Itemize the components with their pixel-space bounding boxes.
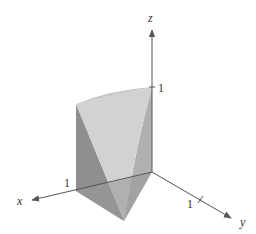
solid-region-diagram: z 1 x 1 y 1: [0, 0, 256, 234]
y-axis: [152, 172, 231, 218]
y-tick-label: 1: [187, 197, 193, 211]
y-axis-label: y: [239, 215, 246, 229]
x-tick-label: 1: [64, 176, 70, 190]
z-axis-label: z: [147, 11, 153, 25]
x-axis-label: x: [16, 194, 23, 208]
z-tick-label: 1: [158, 81, 164, 95]
